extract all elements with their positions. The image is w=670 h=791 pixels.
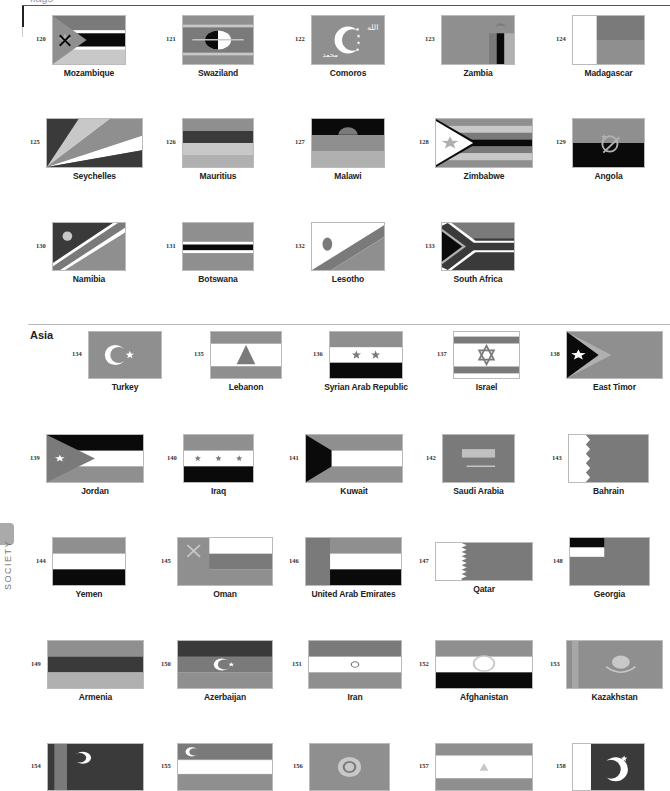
flag-number: 139	[30, 454, 40, 461]
flag-caption: Iraq	[211, 486, 226, 496]
flag-number: 130	[36, 242, 46, 249]
flag-image-madagascar	[572, 15, 645, 65]
flag-number: 124	[556, 35, 566, 42]
flag-image-zimbabwe	[435, 118, 533, 168]
flag-number: 120	[36, 35, 46, 42]
flag-number: 134	[72, 350, 82, 357]
flag-image-saudi	[442, 434, 515, 483]
flag-caption: Israel	[476, 382, 498, 392]
flag-number: 144	[36, 557, 46, 564]
flag-number: 149	[31, 660, 41, 667]
flag-number: 150	[161, 660, 171, 667]
flag-image-israel	[453, 331, 520, 379]
flag-number: 132	[295, 242, 305, 249]
flag-caption: Afghanistan	[460, 692, 508, 702]
flag-number: 152	[419, 660, 429, 667]
flag-number: 135	[194, 350, 204, 357]
header-rule	[22, 5, 670, 6]
flag-image-uae	[305, 537, 402, 586]
flag-image-pakistan	[572, 743, 645, 791]
flag-number: 158	[556, 762, 566, 769]
flag-image-bahrain	[568, 434, 649, 483]
flag-caption: Bahrain	[593, 486, 624, 496]
flag-image-angola	[572, 118, 645, 168]
flag-caption: Botswana	[198, 274, 237, 284]
flag-number: 129	[556, 138, 566, 145]
flag-image-southafrica	[441, 222, 515, 271]
flag-caption: Georgia	[594, 589, 625, 599]
section-divider-asia	[28, 324, 670, 325]
flag-image-kuwait	[305, 434, 403, 483]
flag-number: 138	[550, 350, 560, 357]
flag-image-azerbaijan	[177, 640, 273, 689]
flag-image-armenia	[47, 640, 144, 689]
flag-caption: Swaziland	[198, 68, 238, 78]
flag-number: 157	[419, 762, 429, 769]
flag-caption: Mozambique	[64, 68, 114, 78]
flag-number: 146	[289, 557, 299, 564]
flag-number: 125	[30, 138, 40, 145]
page-header-title: flags	[30, 0, 53, 4]
flag-image-iran	[308, 640, 402, 689]
flag-image-lesotho	[311, 222, 385, 271]
flag-caption: East Timor	[593, 382, 636, 392]
flag-caption: Comoros	[330, 68, 367, 78]
margin-rule	[22, 27, 23, 37]
flag-number: 147	[419, 557, 429, 564]
flag-number: 154	[31, 762, 41, 769]
flag-image-lebanon	[210, 331, 282, 379]
flag-caption: Kuwait	[340, 486, 367, 496]
flag-caption: Turkey	[112, 382, 139, 392]
flag-number: 156	[293, 762, 303, 769]
flag-image-swaziland	[182, 15, 254, 65]
flag-number: 122	[295, 35, 305, 42]
flag-caption: Lebanon	[229, 382, 264, 392]
svg-text:محمد: محمد	[323, 51, 339, 58]
flag-number: 148	[553, 557, 563, 564]
flag-caption: Seychelles	[73, 171, 116, 181]
flag-number: 127	[295, 138, 305, 145]
flag-caption: Syrian Arab Republic	[324, 382, 408, 392]
header-marker-bar	[22, 6, 24, 27]
flag-image-turkmenistan	[47, 743, 144, 791]
flag-image-oman	[177, 537, 273, 586]
flag-caption: Oman	[213, 589, 237, 599]
flag-image-qatar	[435, 542, 533, 581]
flag-number: 155	[161, 762, 171, 769]
flag-image-comoros: اللهمحمد	[311, 15, 385, 65]
flag-caption: Saudi Arabia	[453, 486, 503, 496]
flag-number: 143	[552, 454, 562, 461]
flag-number: 128	[419, 138, 429, 145]
flag-image-afghanistan	[435, 640, 533, 689]
flag-caption: Lesotho	[332, 274, 364, 284]
flag-image-mozambique	[52, 15, 126, 65]
flag-caption: Mauritius	[200, 171, 237, 181]
flag-number: 133	[425, 242, 435, 249]
flag-number: 151	[292, 660, 302, 667]
svg-text:الله: الله	[367, 23, 378, 32]
flag-caption: Armenia	[79, 692, 112, 702]
flag-caption: Yemen	[76, 589, 103, 599]
flag-image-kazakhstan	[566, 640, 663, 689]
flag-caption: Iran	[347, 692, 362, 702]
flag-image-jordan	[46, 434, 144, 483]
flag-image-zambia	[441, 15, 515, 65]
flag-caption: United Arab Emirates	[311, 589, 395, 599]
flag-caption: Namibia	[73, 274, 105, 284]
flag-number: 141	[289, 454, 299, 461]
flag-caption: Zimbabwe	[464, 171, 505, 181]
flag-image-easttimor	[566, 331, 663, 379]
flag-caption: Jordan	[81, 486, 109, 496]
flag-caption: South Africa	[453, 274, 502, 284]
flag-image-namibia	[52, 222, 126, 271]
side-tab-label: SOCIETY	[3, 546, 13, 590]
flag-caption: Angola	[594, 171, 622, 181]
flag-image-botswana	[182, 222, 254, 271]
flag-number: 121	[166, 35, 176, 42]
flag-number: 153	[550, 660, 560, 667]
flag-caption: Zambia	[463, 68, 492, 78]
flag-image-turkey	[88, 331, 162, 379]
flag-image-seychelles	[46, 118, 143, 168]
flag-caption: Qatar	[473, 584, 495, 594]
flag-image-georgia	[569, 537, 650, 586]
